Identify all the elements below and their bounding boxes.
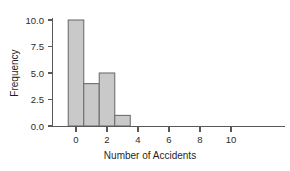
y-tick-label-5: 5.0 bbox=[31, 68, 44, 79]
y-tick-label-0: 0.0 bbox=[31, 121, 44, 132]
x-tick-label-6: 6 bbox=[166, 134, 171, 145]
histogram-figure: 10.0 7.5 5.0 2.5 0.0 0 2 4 6 8 10 Number… bbox=[0, 0, 290, 171]
chart-canvas: 10.0 7.5 5.0 2.5 0.0 0 2 4 6 8 10 Number… bbox=[0, 0, 290, 171]
x-ticks-group bbox=[76, 127, 231, 132]
x-axis-title: Number of Accidents bbox=[104, 150, 196, 161]
y-tick-label-7.5: 7.5 bbox=[31, 41, 44, 52]
x-tick-label-2: 2 bbox=[104, 134, 109, 145]
bar-2 bbox=[99, 73, 115, 126]
bars-group bbox=[68, 20, 130, 126]
y-ticks-group bbox=[48, 20, 53, 126]
y-tick-label-2.5: 2.5 bbox=[31, 94, 44, 105]
bar-1 bbox=[84, 84, 100, 126]
bar-3 bbox=[115, 115, 131, 126]
x-tick-label-4: 4 bbox=[135, 134, 140, 145]
y-axis-title: Frequency bbox=[9, 49, 20, 96]
y-tick-label-10: 10.0 bbox=[26, 15, 45, 26]
x-tick-label-8: 8 bbox=[197, 134, 202, 145]
x-tick-label-10: 10 bbox=[226, 134, 237, 145]
x-tick-label-0: 0 bbox=[73, 134, 78, 145]
bar-0 bbox=[68, 20, 84, 126]
